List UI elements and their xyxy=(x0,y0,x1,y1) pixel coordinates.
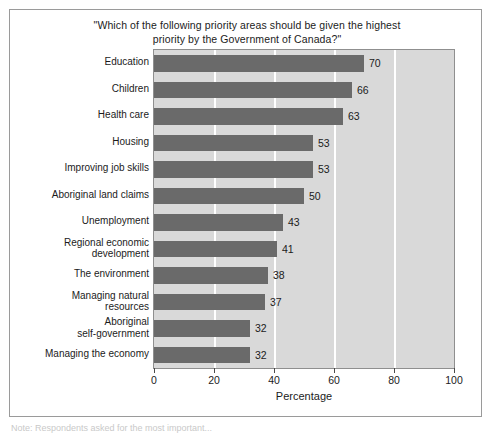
bar-row: 38 xyxy=(154,262,454,289)
bar xyxy=(154,214,283,231)
bar-row: 43 xyxy=(154,209,454,236)
bar-row: 50 xyxy=(154,183,454,210)
bar-row: 32 xyxy=(154,342,454,369)
bar-value-label: 41 xyxy=(277,243,294,255)
bar-row: 66 xyxy=(154,77,454,104)
category-label: Unemployment xyxy=(14,216,149,228)
category-label: Education xyxy=(14,57,149,69)
bar-row: 53 xyxy=(154,156,454,183)
bar xyxy=(154,347,250,364)
x-tick-40 xyxy=(274,368,275,373)
bar-value-label: 66 xyxy=(352,84,369,96)
bar xyxy=(154,161,313,178)
category-label: Regional economic development xyxy=(14,236,149,259)
category-label: Managing the economy xyxy=(14,348,149,360)
bar xyxy=(154,55,364,72)
bar-value-label: 32 xyxy=(250,349,267,361)
bar xyxy=(154,108,343,125)
bar-row: 70 xyxy=(154,50,454,77)
plot-area: 706663535350434138373232 xyxy=(153,49,455,369)
y-axis-category-labels: EducationChildrenHealth careHousingImpro… xyxy=(13,49,149,367)
x-tick-100 xyxy=(454,368,455,373)
bar xyxy=(154,241,277,258)
x-tick-label-100: 100 xyxy=(445,374,463,386)
category-label: Housing xyxy=(14,136,149,148)
category-label: Aboriginal self-government xyxy=(14,316,149,339)
x-tick-0 xyxy=(154,368,155,373)
bar-row: 41 xyxy=(154,236,454,263)
bar-row: 32 xyxy=(154,315,454,342)
category-label: Health care xyxy=(14,110,149,122)
bar xyxy=(154,320,250,337)
x-tick-label-60: 60 xyxy=(328,374,340,386)
x-tick-20 xyxy=(214,368,215,373)
x-tick-60 xyxy=(334,368,335,373)
x-tick-label-40: 40 xyxy=(268,374,280,386)
bar-row: 53 xyxy=(154,130,454,157)
bar-row: 63 xyxy=(154,103,454,130)
x-tick-label-80: 80 xyxy=(388,374,400,386)
bar xyxy=(154,188,304,205)
bar-value-label: 37 xyxy=(265,296,282,308)
bar-value-label: 70 xyxy=(364,57,381,69)
bar xyxy=(154,82,352,99)
bar-value-label: 38 xyxy=(268,269,285,281)
bar-value-label: 32 xyxy=(250,322,267,334)
bar xyxy=(154,294,265,311)
x-tick-80 xyxy=(394,368,395,373)
bar xyxy=(154,267,268,284)
category-label: Aboriginal land claims xyxy=(14,189,149,201)
bar-value-label: 43 xyxy=(283,216,300,228)
bar-value-label: 63 xyxy=(343,110,360,122)
x-tick-label-20: 20 xyxy=(208,374,220,386)
x-axis-title: Percentage xyxy=(153,390,455,402)
category-label: Improving job skills xyxy=(14,163,149,175)
category-label: Children xyxy=(14,83,149,95)
x-tick-label-0: 0 xyxy=(151,374,157,386)
category-label: Managing natural resources xyxy=(14,289,149,312)
bar-row: 37 xyxy=(154,289,454,316)
figure-caption: Note: Respondents asked for the most imp… xyxy=(11,423,212,433)
chart-title: "Which of the following priority areas s… xyxy=(88,18,406,46)
bar xyxy=(154,135,313,152)
category-label: The environment xyxy=(14,269,149,281)
bar-value-label: 50 xyxy=(304,190,321,202)
bar-value-label: 53 xyxy=(313,163,330,175)
figure-frame: "Which of the following priority areas s… xyxy=(9,9,482,417)
bar-value-label: 53 xyxy=(313,137,330,149)
